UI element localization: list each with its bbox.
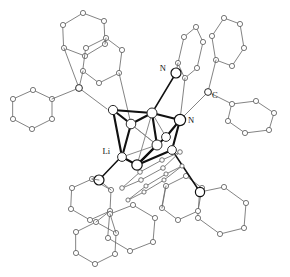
atom-label-n-top: N (160, 63, 166, 73)
core-atom-li4 (162, 133, 171, 142)
atom-label-c-right: C (212, 90, 218, 100)
structure-canvas: N C N Li (0, 0, 290, 277)
core-atom-n3 (126, 119, 136, 129)
core-atom-li1 (108, 105, 117, 114)
atom-label-li-left: Li (102, 146, 110, 156)
crystal-structure-figure: N C N Li (0, 0, 290, 277)
core-atom-li3 (132, 160, 142, 170)
core-atom-n4 (152, 140, 162, 150)
core-atom-li5 (168, 146, 177, 155)
core-atom-li2 (118, 153, 127, 162)
core-atom-n2 (174, 114, 185, 125)
core-atom-n1 (147, 108, 157, 118)
atom-label-n-right: N (188, 115, 194, 125)
